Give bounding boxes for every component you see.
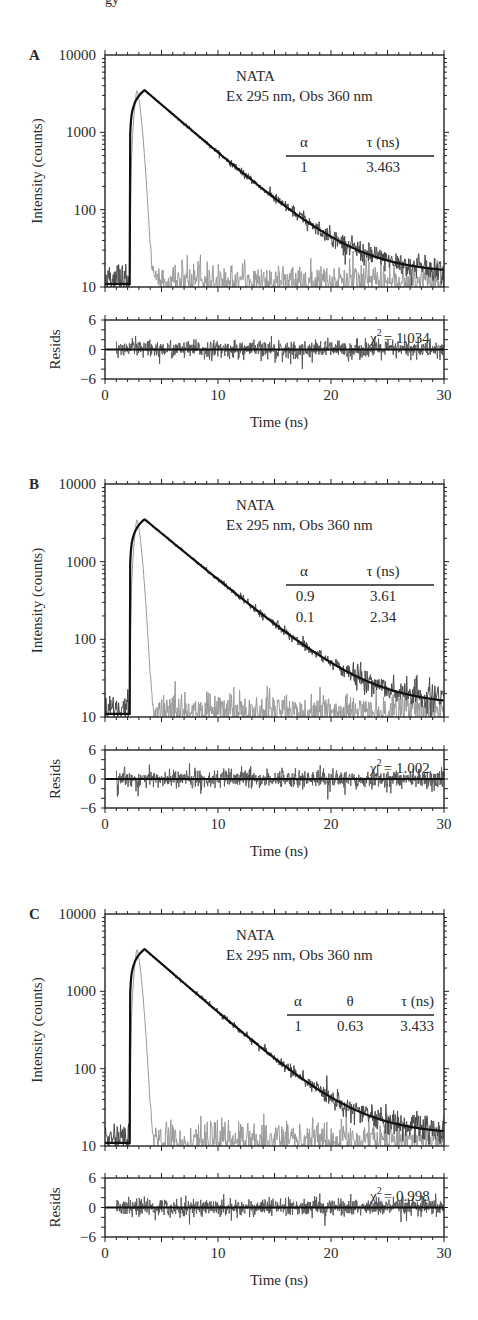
y-tick-label: 10 — [81, 279, 96, 295]
table-cell: 1 — [294, 1018, 302, 1034]
x-tick-label: 20 — [324, 1245, 339, 1261]
y-tick-label: 10000 — [59, 906, 97, 922]
table-header: τ (ns) — [401, 993, 434, 1010]
residuals-plot: 60−6Residsχ2= 1.002 — [47, 742, 448, 816]
table-cell: 0.9 — [296, 588, 315, 604]
decay-data-trace — [105, 949, 444, 1146]
resid-y-tick-label: 6 — [89, 742, 97, 758]
resid-y-tick-label: −6 — [80, 371, 96, 387]
chart-subtitle: Ex 295 nm, Obs 360 nm — [226, 88, 373, 104]
panel-label: A — [29, 47, 40, 63]
chart-subtitle: Ex 295 nm, Obs 360 nm — [226, 947, 373, 963]
table-header: τ (ns) — [366, 134, 399, 151]
y-tick-label: 10 — [81, 1138, 96, 1154]
y-tick-label: 1000 — [66, 983, 96, 999]
table-cell: 3.61 — [370, 588, 396, 604]
decay-plot-area — [105, 90, 444, 287]
y-axis-label: Intensity (counts) — [29, 548, 46, 653]
x-tick-label: 0 — [101, 1245, 109, 1261]
y-tick-label: 10000 — [59, 47, 97, 63]
table-cell: 0.1 — [296, 609, 315, 625]
table-header: α — [300, 134, 308, 150]
fit-parameter-table: ατ (ns)13.463 — [286, 134, 434, 175]
figure: gy10100100010000AIntensity (counts)NATAE… — [0, 0, 478, 1320]
irf-trace — [130, 520, 444, 717]
x-tick-label: 20 — [324, 387, 339, 403]
table-cell: 3.463 — [366, 159, 400, 175]
chart-title: NATA — [236, 68, 275, 84]
y-tick-label: 10 — [81, 709, 96, 725]
x-tick-label: 10 — [211, 1245, 226, 1261]
fit-parameter-table: αθτ (ns)10.633.433 — [287, 993, 434, 1034]
decay-data-trace — [105, 90, 444, 287]
table-header: θ — [346, 993, 353, 1009]
fit-parameter-table: ατ (ns)0.93.610.12.34 — [286, 563, 434, 625]
chart-title: NATA — [236, 497, 275, 513]
table-cell: 2.34 — [370, 609, 397, 625]
x-tick-label: 0 — [101, 816, 109, 832]
x-tick-label: 10 — [211, 387, 226, 403]
y-tick-label: 100 — [74, 202, 97, 218]
residuals-plot: 60−6Residsχ2= 1.034 — [47, 312, 448, 387]
y-tick-label: 1000 — [66, 124, 96, 140]
resid-y-tick-label: 6 — [89, 312, 97, 328]
resid-y-axis-label: Resids — [47, 1187, 63, 1227]
y-tick-label: 100 — [74, 1061, 97, 1077]
resid-y-tick-label: 6 — [89, 1170, 97, 1186]
x-tick-label: 30 — [437, 387, 452, 403]
y-tick-label: 10000 — [59, 476, 97, 492]
x-tick-label: 0 — [101, 387, 109, 403]
x-tick-label: 20 — [324, 816, 339, 832]
panel-label: B — [29, 476, 39, 492]
x-axis-label: Time (ns) — [250, 1272, 308, 1289]
table-header: α — [300, 563, 308, 579]
chart-title: NATA — [236, 927, 275, 943]
resid-y-tick-label: −6 — [80, 800, 96, 816]
chi-square-label: χ2= 0.998 — [369, 1185, 430, 1204]
residuals-plot: 60−6Residsχ2= 0.998 — [47, 1170, 448, 1245]
y-tick-label: 1000 — [66, 554, 96, 570]
page-header-fragment: gy — [105, 0, 119, 7]
chart-subtitle: Ex 295 nm, Obs 360 nm — [226, 517, 373, 533]
table-cell: 3.433 — [400, 1018, 434, 1034]
panel-a: 10100100010000AIntensity (counts)NATAEx … — [29, 47, 452, 431]
table-header: τ (ns) — [366, 563, 399, 580]
resid-y-tick-label: 0 — [89, 342, 97, 358]
decay-plot-area — [105, 949, 444, 1146]
y-axis-label: Intensity (counts) — [29, 118, 46, 223]
panel-label: C — [29, 906, 40, 922]
resid-y-tick-label: 0 — [89, 771, 97, 787]
x-tick-label: 10 — [211, 816, 226, 832]
x-tick-label: 30 — [437, 1245, 452, 1261]
table-header: α — [294, 993, 302, 1009]
resid-y-axis-label: Resids — [47, 329, 63, 369]
resid-y-tick-label: −6 — [80, 1229, 96, 1245]
resid-y-tick-label: 0 — [89, 1200, 97, 1216]
fit-curve — [105, 90, 444, 283]
table-cell: 0.63 — [337, 1018, 363, 1034]
y-tick-label: 100 — [74, 631, 97, 647]
panel-b: 10100100010000BIntensity (counts)NATAEx … — [29, 476, 452, 860]
resid-y-axis-label: Resids — [47, 759, 63, 799]
y-axis-label: Intensity (counts) — [29, 977, 46, 1082]
table-cell: 1 — [300, 159, 308, 175]
panel-c: 10100100010000CIntensity (counts)NATAEx … — [29, 906, 452, 1289]
x-axis-label: Time (ns) — [250, 843, 308, 860]
x-axis-label: Time (ns) — [250, 414, 308, 431]
x-tick-label: 30 — [437, 816, 452, 832]
